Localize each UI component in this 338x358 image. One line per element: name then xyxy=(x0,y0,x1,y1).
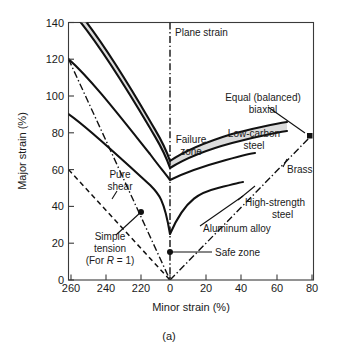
y-tick-label: 120 xyxy=(46,53,64,65)
annotation-low-carbon-steel-line1: Low-carbon xyxy=(228,128,280,139)
x-tick-label: 20 xyxy=(200,282,212,294)
annotation-pure-shear-line2: shear xyxy=(107,181,133,192)
y-tick-label: 60 xyxy=(52,164,64,176)
x-tick-label: 80 xyxy=(306,282,318,294)
y-tick-label: 100 xyxy=(46,90,64,102)
x-axis-title: Minor strain (%) xyxy=(152,301,230,313)
x-tick-label: 240 xyxy=(97,282,115,294)
annotation-aluminum-alloy: Aluminum alloy xyxy=(203,223,271,234)
annotation-high-strength-steel-line1: High-strength xyxy=(245,197,305,208)
x-tick-label: 220 xyxy=(132,282,150,294)
annotation-high-strength-steel-line2: steel xyxy=(272,209,293,220)
equal-biaxial-marker xyxy=(307,133,313,139)
y-tick-label: 80 xyxy=(52,127,64,139)
x-tick-label: 60 xyxy=(271,282,283,294)
y-tick-label: 140 xyxy=(46,17,64,29)
x-tick-label: 0 xyxy=(167,282,173,294)
annotation-failure-zone-line1: Failure xyxy=(176,134,207,145)
x-tick-label: 40 xyxy=(235,282,247,294)
simple-tension-r-prefix: (For xyxy=(86,255,107,266)
y-axis-title: Major strain (%) xyxy=(16,112,28,190)
annotation-equal-biaxial-line2: biaxial xyxy=(249,104,277,115)
x-tick-label: 260 xyxy=(62,282,80,294)
y-tick-label: 0 xyxy=(58,274,64,286)
simple-tension-r-variable: R xyxy=(107,255,114,266)
annotation-simple-tension-line1: Simple xyxy=(95,231,126,242)
forming-limit-diagram-figure: 260 240 220 0 20 40 60 80 0 20 40 60 80 … xyxy=(0,0,338,358)
annotation-safe-zone: Safe zone xyxy=(215,247,260,258)
y-tick-label: 40 xyxy=(52,200,64,212)
annotation-brass: Brass xyxy=(287,164,313,175)
annotation-pure-shear-line1: Pure xyxy=(109,169,131,180)
annotation-simple-tension-line2: tension xyxy=(94,243,126,254)
annotation-low-carbon-steel-line2: steel xyxy=(243,140,264,151)
annotation-plane-strain: Plane strain xyxy=(175,27,228,38)
annotation-simple-tension-line3: (For R = 1) xyxy=(86,255,135,266)
simple-tension-r-suffix: = 1) xyxy=(114,255,134,266)
annotation-failure-zone-line2: zone xyxy=(180,146,202,157)
annotation-equal-biaxial-line1: Equal (balanced) xyxy=(225,92,301,103)
chart-svg: 260 240 220 0 20 40 60 80 0 20 40 60 80 … xyxy=(0,0,338,358)
figure-caption: (a) xyxy=(162,330,175,342)
y-tick-label: 20 xyxy=(52,237,64,249)
